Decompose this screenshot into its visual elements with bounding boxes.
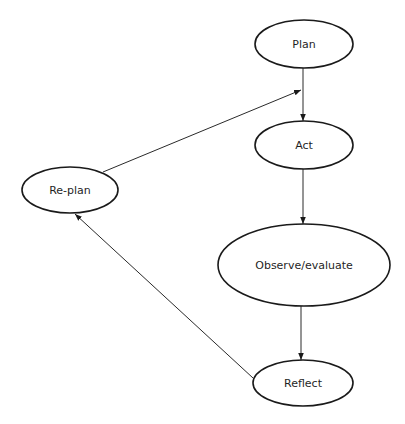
plan-act-cycle-diagram: PlanActObserve/evaluateReflectRe-plan bbox=[0, 0, 405, 424]
node-plan: Plan bbox=[255, 20, 353, 68]
node-replan-label: Re-plan bbox=[49, 184, 91, 197]
node-reflect: Reflect bbox=[253, 360, 353, 406]
node-plan-label: Plan bbox=[292, 38, 315, 51]
node-act: Act bbox=[255, 121, 353, 169]
node-act-label: Act bbox=[295, 139, 313, 152]
nodes: PlanActObserve/evaluateReflectRe-plan bbox=[22, 20, 390, 406]
edges bbox=[75, 68, 303, 378]
arrow-reflect-to-replan bbox=[75, 214, 253, 378]
node-reflect-label: Reflect bbox=[284, 377, 323, 390]
node-observe: Observe/evaluate bbox=[218, 224, 390, 306]
node-observe-label: Observe/evaluate bbox=[255, 259, 353, 272]
node-replan: Re-plan bbox=[22, 167, 118, 213]
